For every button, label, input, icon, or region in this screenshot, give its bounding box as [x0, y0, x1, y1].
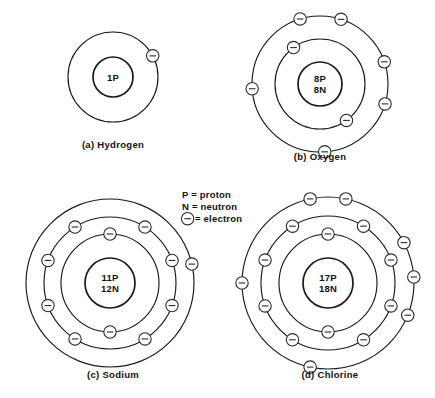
atom-chlorine: 17P18N(d) Chlorine [236, 193, 420, 380]
nucleus-chlorine: 17P18N [303, 258, 353, 308]
nucleus-label-line: 1P [107, 72, 119, 83]
electron-sodium-s3-0 [186, 258, 198, 270]
figure-canvas: 1P(a) Hydrogen8P8N(b) Oxygen11P12N(c) So… [0, 0, 435, 398]
legend-entry-p: P = proton [182, 189, 231, 200]
electron-sodium-s2-3 [166, 299, 178, 311]
nucleus-label-line: 11P [102, 272, 119, 283]
nucleus-label-line: 17P [319, 272, 337, 283]
electron-chlorine-s3-0 [304, 193, 316, 205]
electron-sodium-s2-0 [69, 221, 81, 233]
electron-chlorine-s2-1 [357, 220, 369, 232]
legend-entry-n: N = neutron [182, 201, 237, 212]
electron-oxygen-s1-0 [287, 41, 299, 53]
nucleus-oxygen: 8P8N [298, 62, 342, 106]
electron-chlorine-s2-4 [357, 334, 369, 346]
atomic-structure-figure: 1P(a) Hydrogen8P8N(b) Oxygen11P12N(c) So… [0, 0, 435, 398]
nucleus-label-line: 18N [319, 283, 337, 294]
electron-chlorine-s3-3 [408, 271, 420, 283]
electron-chlorine-s1-0 [322, 228, 334, 240]
electron-chlorine-s2-5 [286, 334, 298, 346]
electron-chlorine-s2-3 [385, 300, 397, 312]
legend-entry-electron: = electron [195, 213, 242, 224]
electron-chlorine-s2-2 [385, 254, 397, 266]
electron-sodium-s2-2 [166, 254, 178, 266]
atom-hydrogen: 1P(a) Hydrogen [68, 32, 159, 150]
nucleus-label-line: 8N [314, 84, 327, 95]
electron-oxygen-s2-3 [379, 98, 391, 110]
electron-oxygen-s2-1 [335, 13, 347, 25]
caption-hydrogen: (a) Hydrogen [82, 139, 144, 150]
electron-oxygen-s2-5 [246, 83, 258, 95]
atom-oxygen: 8P8N(b) Oxygen [246, 13, 391, 162]
electron-oxygen-s2-0 [294, 13, 306, 25]
electron-chlorine-s3-1 [340, 193, 352, 205]
electron-hydrogen-s1-0 [147, 50, 159, 62]
electron-sodium-s2-4 [139, 333, 151, 345]
electron-sodium-s2-1 [139, 221, 151, 233]
electron-sodium-s1-0 [104, 228, 116, 240]
nucleus-label-line: 12N [101, 283, 119, 294]
electron-oxygen-s2-2 [378, 56, 390, 68]
caption-oxygen: (b) Oxygen [294, 151, 347, 162]
legend: P = protonN = neutron= electron [181, 189, 242, 225]
electron-chlorine-s2-7 [259, 254, 271, 266]
caption-chlorine: (d) Chlorine [302, 369, 359, 380]
electron-chlorine-s1-1 [322, 326, 334, 338]
electron-chlorine-s3-6 [236, 277, 248, 289]
electron-chlorine-s2-6 [259, 300, 271, 312]
caption-sodium: (c) Sodium [87, 369, 139, 380]
electron-sodium-s2-6 [42, 299, 54, 311]
nucleus-label-line: 8P [314, 73, 326, 84]
electron-sodium-s2-7 [42, 254, 54, 266]
electron-chlorine-s3-2 [398, 236, 410, 248]
nucleus-sodium: 11P12N [85, 258, 135, 308]
electron-chlorine-s2-0 [286, 220, 298, 232]
electron-chlorine-s3-4 [402, 309, 414, 321]
atom-sodium: 11P12N(c) Sodium [26, 199, 198, 380]
electron-sodium-s2-5 [69, 333, 81, 345]
electron-sodium-s1-1 [104, 326, 116, 338]
electron-oxygen-s1-1 [340, 114, 352, 126]
nucleus-hydrogen: 1P [93, 57, 133, 97]
